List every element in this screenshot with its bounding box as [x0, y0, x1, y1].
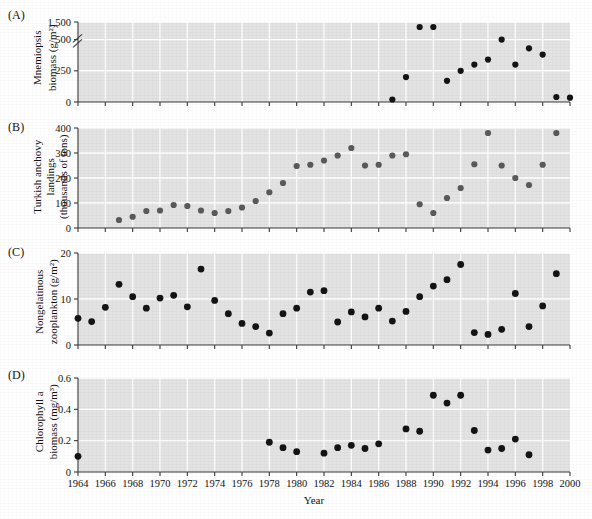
- y-tick-label: 300: [55, 148, 71, 159]
- data-point: [239, 204, 245, 210]
- y-tick-label: 500: [55, 34, 71, 45]
- data-point: [540, 162, 546, 168]
- data-point: [499, 162, 505, 168]
- data-point: [499, 37, 505, 43]
- data-point: [75, 315, 82, 322]
- data-point: [512, 290, 519, 297]
- data-point: [403, 308, 410, 315]
- data-point: [485, 447, 492, 454]
- data-point: [403, 426, 410, 433]
- data-point: [334, 444, 341, 451]
- data-point: [184, 203, 190, 209]
- data-point: [212, 210, 218, 216]
- data-point: [362, 445, 369, 452]
- data-point: [458, 68, 464, 74]
- data-point: [294, 163, 300, 169]
- data-point: [307, 289, 314, 296]
- data-point: [293, 305, 300, 312]
- data-point: [143, 305, 150, 312]
- figure-panels-abcd: (A) Mnemiopsis biomass (g/m²) (B) Turkis…: [0, 0, 592, 519]
- data-point: [444, 400, 451, 407]
- data-point: [280, 180, 286, 186]
- data-point: [553, 94, 559, 100]
- data-point: [321, 450, 328, 457]
- data-point: [553, 270, 560, 277]
- y-tick-label: 0: [66, 97, 71, 108]
- data-point: [430, 392, 437, 399]
- data-point: [512, 61, 518, 67]
- data-point: [389, 318, 396, 325]
- data-point: [430, 210, 436, 216]
- data-point: [334, 319, 341, 326]
- data-point: [512, 436, 519, 443]
- panel-b: [74, 128, 570, 232]
- data-point: [526, 45, 532, 51]
- data-point: [116, 281, 123, 288]
- data-point: [458, 185, 464, 191]
- data-point: [171, 202, 177, 208]
- data-point: [526, 451, 533, 458]
- scatter-plots-svg: 02505001,50001002003004000102000.20.40.6…: [0, 0, 592, 519]
- panel-a: [73, 22, 573, 106]
- data-point: [225, 208, 231, 214]
- x-tick-label: 1984: [341, 478, 363, 489]
- x-tick-label: 1988: [396, 478, 417, 489]
- data-point: [457, 261, 464, 268]
- x-axis-title: Year: [284, 494, 344, 506]
- data-point: [129, 293, 136, 300]
- data-point: [444, 78, 450, 84]
- x-tick-label: 1998: [532, 478, 553, 489]
- data-point: [471, 427, 478, 434]
- data-point: [198, 207, 204, 213]
- data-point: [553, 130, 559, 136]
- y-tick-label: 100: [55, 198, 71, 209]
- data-point: [526, 323, 533, 330]
- x-tick-label: 1992: [450, 478, 471, 489]
- data-point: [485, 331, 492, 338]
- data-point: [102, 304, 109, 311]
- y-tick-label: 0: [66, 223, 71, 234]
- data-point: [444, 276, 451, 283]
- y-tick-label: 0: [66, 340, 71, 351]
- data-point: [471, 161, 477, 167]
- y-tick-label: 0.2: [58, 435, 71, 446]
- data-point: [416, 428, 423, 435]
- x-tick-label: 1966: [95, 478, 116, 489]
- data-point: [252, 323, 259, 330]
- data-point: [293, 448, 300, 455]
- y-tick-label: 0.6: [58, 373, 71, 384]
- data-point: [417, 201, 423, 207]
- x-tick-label: 1968: [122, 478, 143, 489]
- data-point: [266, 439, 273, 446]
- data-point: [307, 162, 313, 168]
- y-tick-label: 10: [61, 294, 72, 305]
- data-point: [198, 266, 205, 273]
- data-point: [253, 198, 259, 204]
- data-point: [416, 293, 423, 300]
- data-point: [403, 151, 409, 157]
- x-tick-label: 1974: [204, 478, 226, 489]
- data-point: [348, 308, 355, 315]
- data-point: [170, 292, 177, 299]
- data-point: [266, 330, 273, 337]
- y-tick-label: 0: [66, 467, 71, 478]
- data-point: [567, 95, 573, 101]
- data-point: [75, 453, 82, 460]
- data-point: [348, 145, 354, 151]
- data-point: [471, 329, 478, 336]
- y-tick-label: 250: [55, 65, 71, 76]
- data-point: [211, 297, 218, 304]
- data-point: [225, 310, 232, 317]
- data-point: [362, 162, 368, 168]
- data-point: [485, 56, 491, 62]
- data-point: [184, 303, 191, 310]
- data-point: [417, 24, 423, 30]
- panel-d: [74, 378, 570, 476]
- data-point: [498, 445, 505, 452]
- data-point: [239, 320, 246, 327]
- data-point: [539, 303, 546, 310]
- data-point: [389, 152, 395, 158]
- data-point: [471, 61, 477, 67]
- data-point: [403, 74, 409, 80]
- x-tick-label: 2000: [560, 478, 581, 489]
